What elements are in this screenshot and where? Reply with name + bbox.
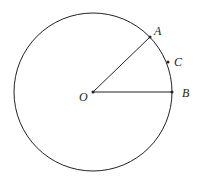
label-C: C <box>174 55 183 69</box>
radius-OA <box>93 37 150 92</box>
point-B <box>171 91 174 94</box>
point-A <box>149 36 152 39</box>
point-C <box>167 61 170 64</box>
circle-diagram: O A C B <box>0 0 200 179</box>
label-B: B <box>182 86 190 100</box>
point-O <box>92 91 95 94</box>
label-A: A <box>153 24 162 38</box>
label-O: O <box>79 90 88 104</box>
